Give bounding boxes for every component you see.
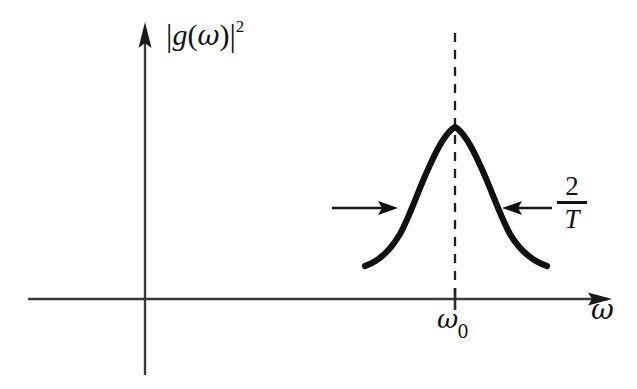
right-width-arrow xyxy=(502,201,552,215)
figure-canvas: |g(ω)|2 ω ω0 2 T xyxy=(0,0,637,389)
y-axis-label-open-paren: ( xyxy=(187,18,197,51)
y-axis-label-function-symbol: g xyxy=(172,18,187,51)
omega0-symbol: ω xyxy=(437,304,458,334)
linewidth-fraction-label: 2 T xyxy=(552,172,592,234)
y-axis-label-close-paren: ) xyxy=(219,18,229,51)
omega0-subscript: 0 xyxy=(457,321,468,342)
x-axis-label: ω xyxy=(591,296,614,324)
left-width-arrow xyxy=(332,201,398,215)
y-axis-label-right-bar: | xyxy=(229,17,235,53)
y-axis-label: |g(ω)|2 xyxy=(166,18,244,50)
plot-svg xyxy=(0,0,637,389)
linewidth-numerator: 2 xyxy=(552,172,592,200)
y-axis-label-exponent: 2 xyxy=(236,17,245,36)
y-axis-label-left-bar: | xyxy=(166,17,172,53)
linewidth-denominator: T xyxy=(552,205,592,233)
y-axis-label-argument: ω xyxy=(197,20,219,51)
omega0-tick-label: ω0 xyxy=(437,306,470,337)
